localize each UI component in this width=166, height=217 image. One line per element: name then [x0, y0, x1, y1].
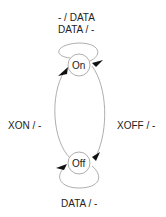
- arrowhead-icon: [56, 164, 67, 170]
- state-off-label: Off: [72, 158, 85, 169]
- state-on-label: On: [72, 60, 85, 71]
- on-self-loop-label-2: DATA / -: [58, 24, 94, 35]
- xoff-edge: [92, 66, 105, 154]
- arrowhead-icon: [92, 152, 100, 161]
- xoff-label: XOFF / -: [117, 120, 155, 131]
- xon-label: XON / -: [8, 120, 41, 131]
- xon-edge: [55, 72, 70, 158]
- arrowhead-icon: [92, 60, 103, 67]
- on-self-loop-label-1: - / DATA: [58, 12, 95, 23]
- arrowhead-icon: [58, 67, 68, 76]
- off-self-loop-label: DATA / -: [61, 198, 97, 209]
